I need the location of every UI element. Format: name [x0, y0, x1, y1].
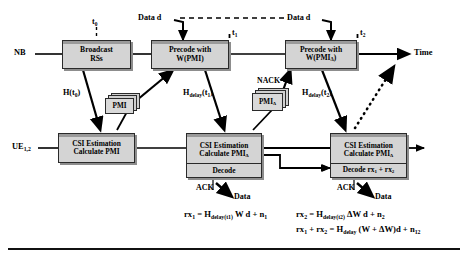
csi2-decode-label: Decode [213, 167, 236, 175]
ack-data-left [216, 183, 231, 196]
ack-data-right [357, 183, 372, 196]
label-h-delay-t1: Hdelay(t1) [183, 88, 213, 98]
h-delay-t2-arrow [322, 70, 345, 129]
label-time: Time [414, 48, 432, 57]
csi3-header: CSI Estimation Calculate PMIΔ [331, 138, 406, 163]
box-precode-w-pmi-delta[interactable]: Precode with W(PMIΔ) [285, 40, 357, 69]
figure-canvas: Broadcast RSs Precode with W(PMI) Precod… [0, 0, 468, 256]
label-t1: t1 [232, 28, 237, 38]
data-d-left-arrow [174, 20, 183, 40]
box-precode-w-pmi-delta-line2: W(PMIΔ) [306, 54, 337, 63]
box-precode-w-pmi[interactable]: Precode with W(PMI) [151, 40, 229, 69]
csi1-line2: Calculate PMI [73, 148, 119, 156]
equation-rx2: rx2 = Hdelay(t2) ΔW d + n2 [296, 209, 385, 220]
label-data-d-right: Data d [287, 13, 310, 22]
h-delay-t1-arrow [205, 70, 224, 129]
label-t2: t2 [360, 28, 365, 38]
final-dotted-arrow [355, 68, 393, 128]
label-nack: NACK [257, 76, 280, 85]
csi2-line2: Calculate PMIΔ [199, 150, 248, 159]
label-data-left: Data [234, 192, 250, 201]
csi2-decode-cell[interactable]: Decode [187, 163, 261, 177]
pmi-delta-label: PMIΔ [259, 98, 276, 106]
csi3-decode-cell[interactable]: Decode rx1 + rx2 [331, 163, 406, 177]
label-t0: t0 [92, 17, 97, 27]
label-ue: UE1,2 [12, 142, 31, 152]
label-ack-left: ACK [196, 183, 214, 192]
csi2-header: CSI Estimation Calculate PMIΔ [187, 138, 261, 163]
label-ack-right: ACK [337, 183, 355, 192]
label-data-right: Data [375, 192, 391, 201]
label-data-d-left: Data d [138, 13, 161, 22]
pmi-to-precode-arrow [137, 71, 172, 100]
pmi-label: PMI [113, 102, 127, 110]
bottom-rule [8, 248, 460, 250]
equation-rx1: rx1 = Hdelay(t1) W d + n1 [184, 209, 267, 220]
card-pmi[interactable]: PMI [105, 93, 141, 115]
equation-rx1-plus-rx2: rx1 + rx2 = Hdelay (W + ΔW)d + n12 [296, 224, 421, 235]
box-precode-w-pmi-line2: W(PMI) [176, 55, 203, 63]
csi2-to-pmi-delta-arrow [253, 110, 272, 130]
data-d-right-arrow [322, 20, 331, 40]
box-broadcast-rss-line2: RSs [90, 55, 103, 63]
box-csi-estimation-calculate-pmi-delta[interactable]: CSI Estimation Calculate PMIΔ Decode [186, 133, 262, 178]
box-broadcast-rss[interactable]: Broadcast RSs [62, 40, 131, 69]
box-csi-estimation-calculate-pmi-delta-2[interactable]: CSI Estimation Calculate PMIΔ Decode rx1… [330, 133, 407, 178]
label-nb: NB [14, 48, 26, 57]
card-pmi-delta[interactable]: PMIΔ [252, 88, 290, 112]
box-csi-estimation-calculate-pmi[interactable]: CSI Estimation Calculate PMI [58, 133, 135, 163]
label-h-t0: H(t0) [63, 88, 80, 98]
csi3-decode-label: Decode rx1 + rx2 [343, 166, 395, 175]
pmi-sheet-front: PMI [105, 98, 134, 114]
pmi-delta-sheet-front: PMIΔ [252, 93, 283, 111]
csi3-line2: Calculate PMIΔ [344, 150, 393, 159]
label-h-delay-t2: Hdelay(t2) [302, 88, 332, 98]
h-t0-arrow [83, 70, 100, 129]
